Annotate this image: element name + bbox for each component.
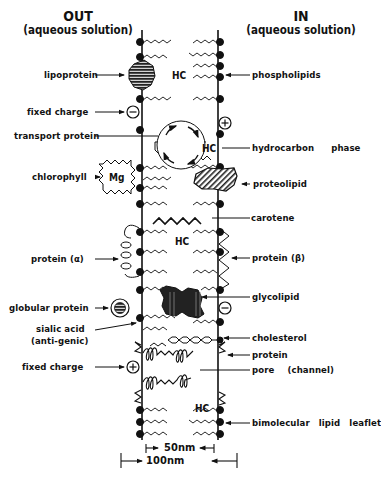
out-subtitle: (aqueous solution)	[22, 24, 134, 37]
hc-label-4: HC	[195, 403, 209, 414]
label-phospholipids: phospholipids	[252, 69, 321, 80]
out-header: OUT (aqueous solution)	[22, 8, 134, 37]
label-sialic-acid-sub: (anti-genic)	[31, 335, 88, 346]
carotene-shape	[153, 218, 201, 224]
in-header: IN (aqueous solution)	[240, 8, 362, 37]
label-chlorophyll: chlorophyll	[32, 171, 87, 182]
label-glycolipid: glycolipid	[252, 291, 300, 302]
hc-label-1: HC	[172, 70, 186, 81]
label-carotene: carotene	[251, 212, 295, 223]
fixed-charge-minus-right	[219, 302, 231, 314]
label-protein: protein	[252, 349, 288, 360]
protein-beta-shape	[219, 228, 229, 290]
hc-label-2: HC	[202, 143, 216, 154]
label-transport-protein: transport protein	[14, 130, 99, 141]
fixed-charge-minus-top	[127, 106, 139, 118]
scale-label-100nm: 100nm	[146, 455, 185, 466]
in-title: IN	[240, 8, 362, 24]
label-fixed-charge-bottom: fixed charge	[22, 361, 83, 372]
label-hydrocarbon-phase: hydrocarbon phase	[252, 142, 361, 153]
pore-channel-shape	[135, 342, 225, 405]
label-globular-protein: globular protein	[9, 302, 89, 313]
label-sialic-acid: sialic acid	[36, 323, 85, 334]
label-protein-beta: protein (β)	[252, 252, 305, 263]
globular-protein-shape	[111, 299, 129, 317]
out-title: OUT	[22, 8, 134, 24]
hc-label-3: HC	[175, 236, 189, 247]
label-lipoprotein: lipoprotein	[44, 69, 98, 80]
glycolipid-shape	[160, 286, 204, 318]
label-proteolipid: proteolipid	[253, 178, 307, 189]
in-subtitle: (aqueous solution)	[240, 24, 362, 37]
label-pore-channel: pore (channel)	[252, 364, 334, 375]
scale-label-50nm: 50nm	[164, 442, 196, 453]
label-protein-alpha: protein (α)	[31, 253, 84, 264]
label-fixed-charge-top: fixed charge	[27, 106, 88, 117]
proteolipid-shape	[194, 168, 237, 191]
label-bimolecular-lipid-leaflet: bimolecular lipid leaflet	[252, 417, 381, 428]
label-cholesterol: cholesterol	[252, 332, 307, 343]
left-leader-lines	[95, 75, 158, 367]
fixed-charge-plus-top	[219, 117, 231, 129]
mg-label: Mg	[109, 172, 124, 183]
fixed-charge-plus-bottom	[127, 361, 139, 373]
lipoprotein-shape	[129, 60, 155, 90]
cholesterol-shape	[150, 337, 217, 346]
